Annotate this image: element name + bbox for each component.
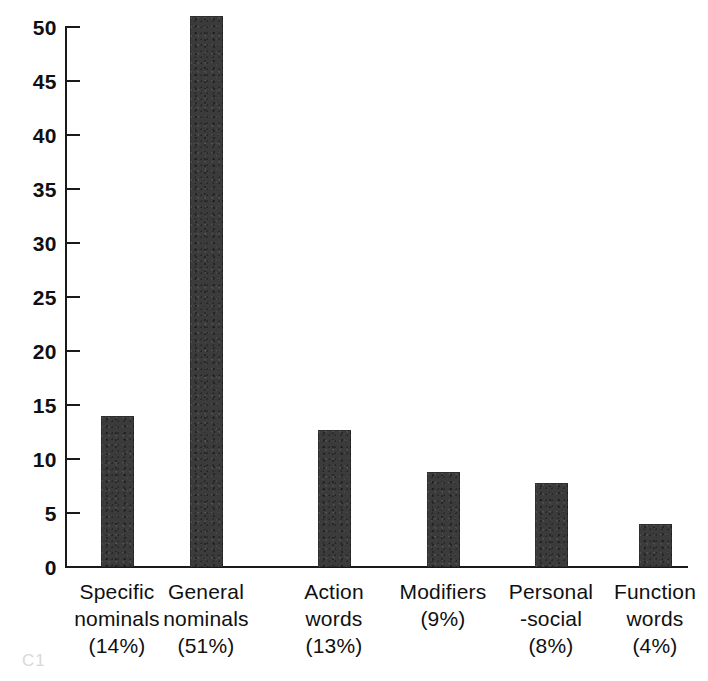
y-axis-tick-label: 35 (7, 179, 57, 200)
y-axis-tick-mark (67, 188, 80, 190)
y-axis-tick-label: 15 (7, 395, 57, 416)
y-axis-tick-mark (67, 80, 80, 82)
x-axis-label-line: nominals (136, 605, 276, 632)
y-axis-tick-label: 45 (7, 71, 57, 92)
y-axis-tick-label: 50 (7, 17, 57, 38)
bar (318, 430, 351, 567)
x-axis-label-line: words (585, 605, 708, 632)
y-axis-tick-label: 25 (7, 287, 57, 308)
y-axis-tick-label: 20 (7, 341, 57, 362)
x-axis-label: Generalnominals(51%) (136, 578, 276, 659)
y-axis-tick-mark (67, 566, 80, 568)
y-axis-tick-label: 40 (7, 125, 57, 146)
x-axis-label-line: General (136, 578, 276, 605)
x-axis-label-line: (13%) (264, 632, 404, 659)
y-axis-tick-mark (67, 242, 80, 244)
bar (535, 483, 568, 567)
y-axis-tick-label: 5 (7, 503, 57, 524)
bar-chart-figure: 50454035302520151050 Specificnominals(14… (0, 0, 708, 681)
x-axis-line (65, 566, 688, 568)
y-axis-tick-mark (67, 350, 80, 352)
y-axis-tick-mark (67, 296, 80, 298)
y-axis-tick-label: 0 (7, 557, 57, 578)
bar (427, 472, 460, 567)
y-axis-tick-mark (67, 458, 80, 460)
y-axis-tick-mark (67, 512, 80, 514)
bar (639, 524, 672, 567)
bar (190, 16, 223, 567)
y-axis-tick-mark (67, 26, 80, 28)
y-axis-tick-label: 30 (7, 233, 57, 254)
caption-remnant: C1 (22, 651, 46, 671)
y-axis-tick-mark (67, 404, 80, 406)
x-axis-label-line: (4%) (585, 632, 708, 659)
x-axis-label: Functionwords(4%) (585, 578, 708, 659)
x-axis-label-line: Function (585, 578, 708, 605)
y-axis-tick-mark (67, 134, 80, 136)
bar (101, 416, 134, 567)
x-axis-label-line: (51%) (136, 632, 276, 659)
y-axis-tick-label: 10 (7, 449, 57, 470)
plot-area: 50454035302520151050 Specificnominals(14… (0, 0, 708, 681)
